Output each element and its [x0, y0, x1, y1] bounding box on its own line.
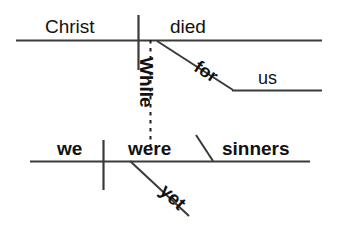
label-object-us: us [258, 69, 277, 87]
label-conjunction-while: While [137, 57, 156, 108]
label-subject-christ: Christ [45, 17, 95, 36]
sentence-diagram: Christ died for us While we were sinners… [0, 0, 340, 225]
label-verb-were: were [128, 139, 171, 158]
label-verb-died: died [170, 17, 206, 36]
predicate-complement-divider [196, 135, 213, 161]
label-complement-sinners: sinners [222, 139, 290, 158]
label-subject-we: we [57, 139, 82, 158]
